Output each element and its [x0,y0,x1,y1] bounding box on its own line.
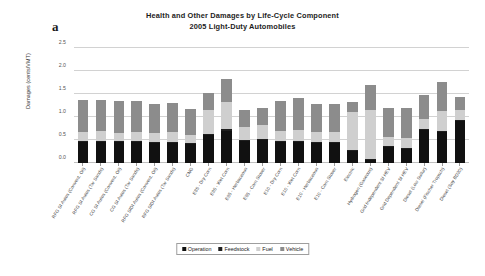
chart-title-line-2: 2005 Light-Duty Automobiles [0,22,485,33]
bar-slot[interactable] [379,48,397,163]
x-axis-tick [172,163,173,166]
legend-swatch-icon [256,247,260,251]
bar-segment-operation [167,143,178,163]
x-axis-tick [316,163,317,166]
legend-item[interactable]: Operation [182,246,212,252]
stacked-bar[interactable] [383,108,394,163]
stacked-bar[interactable] [401,108,412,163]
stacked-bar[interactable] [365,85,376,163]
bar-slot[interactable] [433,48,451,163]
bar-segment-vehicle [96,100,107,132]
bar-segment-vehicle [365,85,376,109]
bar-slot[interactable] [254,48,272,163]
bar-slot[interactable] [200,48,218,163]
bar-segment-vehicle [455,97,466,109]
bar-segment-vehicle [221,79,232,102]
x-axis-tick [100,163,101,166]
x-label-slot: E10 - Wet Corn [289,167,307,237]
bar-slot[interactable] [74,48,92,163]
bar-segment-operation [437,132,448,163]
bar-segment-fuel [167,132,178,142]
bar-segment-vehicle [293,98,304,130]
bar-slot[interactable] [289,48,307,163]
bar-segment-fuel [239,127,250,140]
bar-segment-fuel [419,119,430,129]
stacked-bar[interactable] [149,104,160,163]
stacked-bar[interactable] [203,93,214,163]
legend-item[interactable]: Feedstock [218,246,249,252]
bar-slot[interactable] [343,48,361,163]
bar-slot[interactable] [182,48,200,163]
x-axis-tick [352,163,353,166]
bar-segment-fuel [437,111,448,132]
plot-area: 0.00.51.01.52.02.5 [74,48,469,163]
stacked-bar[interactable] [239,110,250,163]
x-axis-tick [208,163,209,166]
bar-segment-operation [293,142,304,163]
bar-slot[interactable] [92,48,110,163]
bar-series-container [74,48,469,163]
bar-segment-operation [114,142,125,163]
bar-segment-fuel [383,137,394,147]
x-label-slot: E85 - Dry Corn [200,167,218,237]
bar-segment-vehicle [131,101,142,132]
bar-segment-operation [131,142,142,163]
stacked-bar[interactable] [114,101,125,163]
stacked-bar[interactable] [293,98,304,163]
bar-segment-operation [185,144,196,163]
chart-legend: OperationFeedstockFuelVehicle [176,243,309,255]
stacked-bar[interactable] [437,82,448,163]
legend-item[interactable]: Vehicle [280,246,303,252]
bar-slot[interactable] [146,48,164,163]
legend-item[interactable]: Fuel [256,246,273,252]
bar-slot[interactable] [415,48,433,163]
bar-slot[interactable] [236,48,254,163]
bar-segment-fuel [96,131,107,141]
bar-segment-operation [203,135,214,163]
bar-slot[interactable] [110,48,128,163]
x-axis-tick [406,163,407,166]
x-axis-tick-label: RFG SI Autos (Convent. Oil) [52,167,87,220]
stacked-bar[interactable] [221,79,232,163]
bar-segment-operation [455,121,466,163]
bar-segment-fuel [401,138,412,148]
bar-slot[interactable] [361,48,379,163]
stacked-bar[interactable] [455,97,466,163]
bar-segment-fuel [329,132,340,142]
x-axis-tick-label: CNG [185,167,194,178]
bar-segment-operation [221,131,232,163]
stacked-bar[interactable] [347,102,358,163]
chart-figure: a Health and Other Damages by Life-Cycle… [0,0,485,276]
stacked-bar[interactable] [185,109,196,163]
x-axis-tick-label: Electric [344,167,356,183]
bar-segment-vehicle [437,82,448,111]
stacked-bar[interactable] [275,101,286,163]
bar-segment-fuel [365,110,376,159]
stacked-bar[interactable] [78,100,89,163]
bar-slot[interactable] [218,48,236,163]
stacked-bar[interactable] [167,103,178,163]
x-label-slot: RFG SIDI Autos (Tar Sands) [164,167,182,237]
bar-slot[interactable] [451,48,469,163]
bar-segment-vehicle [167,103,178,132]
bar-slot[interactable] [164,48,182,163]
bar-slot[interactable] [397,48,415,163]
bar-slot[interactable] [128,48,146,163]
x-label-slot: E85 - Herbaceous [236,167,254,237]
stacked-bar[interactable] [329,104,340,163]
x-axis-tick [298,163,299,166]
stacked-bar[interactable] [419,95,430,163]
bar-slot[interactable] [307,48,325,163]
stacked-bar[interactable] [131,101,142,163]
bar-segment-vehicle [239,110,250,127]
bar-slot[interactable] [325,48,343,163]
stacked-bar[interactable] [96,100,107,163]
y-axis-tick-label: 2.0 [59,62,66,68]
bar-segment-vehicle [203,93,214,110]
stacked-bar[interactable] [257,108,268,163]
bar-segment-vehicle [401,108,412,138]
bar-slot[interactable] [271,48,289,163]
bar-segment-operation [149,143,160,163]
bar-segment-operation [401,149,412,163]
stacked-bar[interactable] [311,104,322,163]
